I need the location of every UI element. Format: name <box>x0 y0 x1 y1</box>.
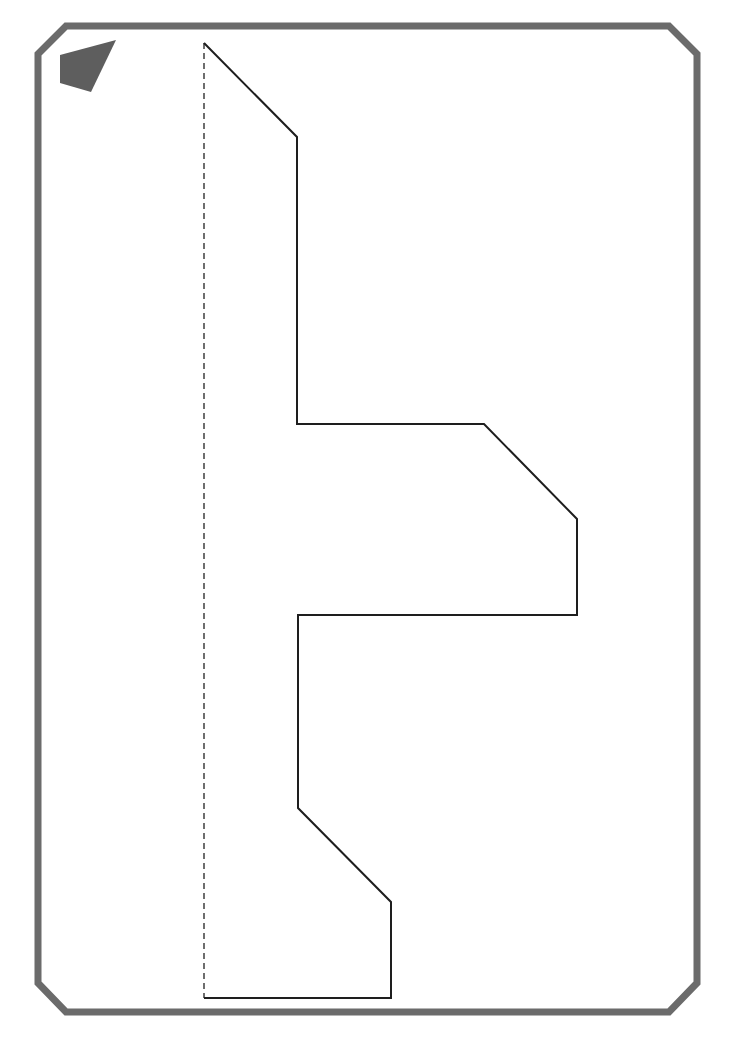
card-frame <box>38 26 697 1012</box>
diagram-canvas <box>0 0 739 1052</box>
corner-marker-icon <box>60 40 116 92</box>
cutout-shape-outline <box>204 43 577 998</box>
